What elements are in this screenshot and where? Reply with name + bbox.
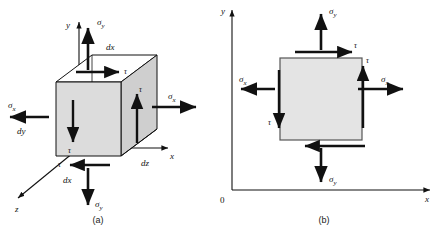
panel-a-3d-element: σy σy σx σx τ τ τ τ dx dy — [0, 0, 217, 236]
stress-square — [280, 58, 362, 140]
panel-b-canvas: y x 0 σy τ σy σx τ σx — [217, 0, 434, 236]
stress-element-figure: σy σy σx σx τ τ τ τ dx dy — [0, 0, 434, 236]
cube-group — [56, 55, 157, 156]
x-axis-label-a: x — [169, 151, 174, 161]
sigma-x-right-label-b: σx — [381, 74, 389, 87]
caption-a: (a) — [93, 215, 104, 225]
panel-b-2d-element: y x 0 σy τ σy σx τ σx — [217, 0, 434, 236]
z-axis-label-a: z — [14, 204, 19, 214]
origin-label-b: 0 — [220, 195, 225, 205]
dy-left-label: dy — [17, 126, 26, 136]
dz-right-label: dz — [141, 158, 150, 168]
tau-left-label-b: τ — [268, 118, 272, 127]
sigma-x-left-label-b: σx — [239, 74, 247, 87]
x-axis-label-b: x — [424, 194, 429, 204]
sigma-y-bottom-label-b: σy — [329, 174, 337, 187]
dx-top-label: dx — [106, 42, 115, 52]
y-axis-label-a: y — [65, 20, 70, 30]
dx-bottom-label: dx — [63, 175, 72, 185]
sigma-y-top-label-b: σy — [329, 6, 337, 19]
sigma-y-top-label: σy — [97, 17, 105, 30]
cube-face-front — [56, 82, 121, 156]
tau-bottom-label: τ — [58, 160, 62, 169]
panel-a-canvas: σy σy σx σx τ τ τ τ dx dy — [0, 0, 217, 236]
sigma-x-right-label: σx — [168, 91, 176, 104]
caption-b: (b) — [319, 215, 330, 225]
y-axis-label-b: y — [220, 6, 225, 16]
sigma-x-left-label: σx — [8, 100, 16, 113]
tau-right-label-b: τ — [366, 56, 370, 65]
tau-top-label-b: τ — [354, 41, 358, 50]
sigma-y-bottom-label: σy — [95, 199, 103, 212]
